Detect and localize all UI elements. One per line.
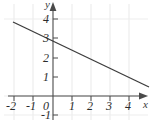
y-tick-label--1: -1 (41, 109, 51, 121)
y-axis-label: y (45, 0, 50, 10)
y-tick-label-2: 2 (43, 52, 49, 64)
y-tick-label-4: 4 (43, 13, 49, 25)
x-tick-label-1: 1 (69, 100, 75, 112)
x-axis-label: x (143, 99, 148, 110)
y-axis-arrow-icon (50, 2, 57, 11)
x-tick-label-4: 4 (125, 100, 131, 112)
coordinate-plane-graph: -2 -1 0 1 2 3 4 4 3 2 1 -1 y x (0, 0, 150, 128)
x-tick-label--1: -1 (26, 100, 36, 112)
x-tick-label--2: -2 (6, 100, 16, 112)
y-tick-label-3: 3 (43, 32, 49, 44)
y-tick-label-1: 1 (43, 71, 49, 83)
x-tick-label-3: 3 (106, 100, 112, 112)
y-axis (50, 2, 58, 120)
x-tick-label-2: 2 (87, 100, 93, 112)
